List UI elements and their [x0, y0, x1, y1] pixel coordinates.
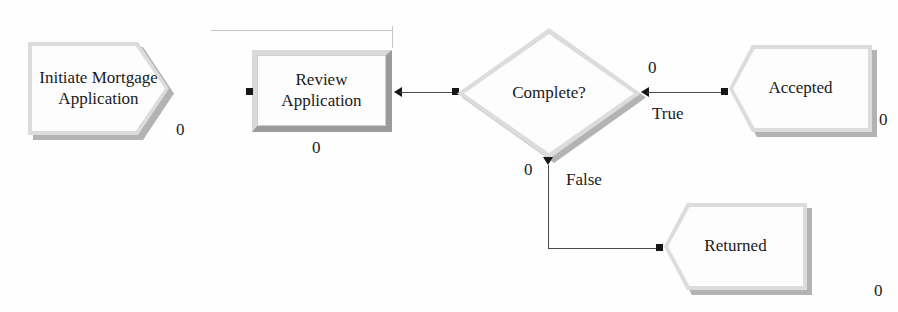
node-label: Review Application — [275, 70, 367, 110]
node-label-line1: Review — [296, 70, 348, 89]
connector-handle-returned-left[interactable] — [656, 244, 663, 251]
node-review-application[interactable]: Review Application — [252, 50, 392, 132]
edge-label-true: True — [652, 104, 684, 124]
counter-complete-true: 0 — [648, 58, 657, 78]
loopback-line-horizontal — [211, 30, 393, 31]
edge-label-false: False — [566, 170, 602, 190]
node-label-line2: Application — [281, 91, 361, 110]
edge-line-true-to-accepted — [647, 92, 723, 93]
counter-accepted: 0 — [879, 110, 888, 130]
flowchart-canvas: Initiate Mortgage Application 0 Review A… — [0, 0, 898, 312]
node-face: Returned — [668, 207, 803, 286]
counter-returned: 0 — [874, 281, 883, 301]
edge-line-false-horizontal — [548, 248, 659, 249]
node-label: Accepted — [762, 78, 838, 98]
edge-line-review-to-complete — [400, 92, 454, 93]
node-label: Complete? — [506, 83, 592, 103]
counter-review: 0 — [312, 138, 321, 158]
node-face: Complete? — [464, 34, 634, 153]
clipped-header-text — [0, 0, 898, 7]
loopback-line-vertical — [392, 26, 393, 48]
node-initiate-mortgage-application[interactable]: Initiate Mortgage Application — [28, 42, 174, 140]
node-complete-decision[interactable]: Complete? — [457, 28, 647, 165]
node-label-line1: Initiate Mortgage — [39, 68, 158, 87]
edge-line-false-vertical — [548, 165, 549, 248]
node-face: Accepted — [733, 49, 868, 128]
counter-complete-false: 0 — [524, 160, 533, 180]
connector-handle-review-left[interactable] — [246, 88, 253, 95]
counter-initiate: 0 — [176, 120, 185, 140]
connector-handle-accepted-left[interactable] — [721, 88, 728, 95]
node-accepted[interactable]: Accepted — [729, 45, 877, 137]
node-label-line2: Application — [58, 89, 138, 108]
node-label: Returned — [698, 236, 772, 256]
arrowhead-complete-false — [543, 157, 553, 165]
node-label: Initiate Mortgage Application — [33, 68, 164, 108]
node-returned[interactable]: Returned — [664, 203, 812, 295]
